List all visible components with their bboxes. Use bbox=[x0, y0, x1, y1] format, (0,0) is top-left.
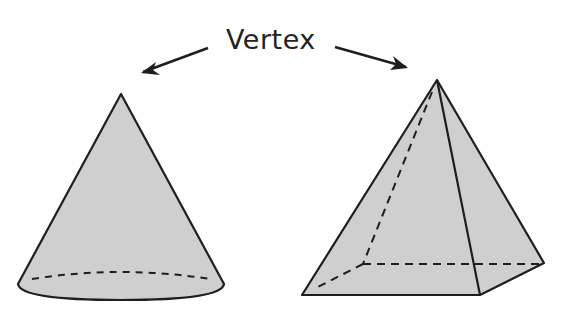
arrow-to-pyramid-apex bbox=[335, 47, 408, 70]
cone-shape bbox=[18, 94, 224, 300]
diagram-canvas: Vertex bbox=[0, 0, 562, 320]
square-pyramid-shape bbox=[302, 80, 544, 295]
arrow-to-cone-apex bbox=[141, 48, 208, 75]
diagram-figure bbox=[0, 0, 562, 320]
